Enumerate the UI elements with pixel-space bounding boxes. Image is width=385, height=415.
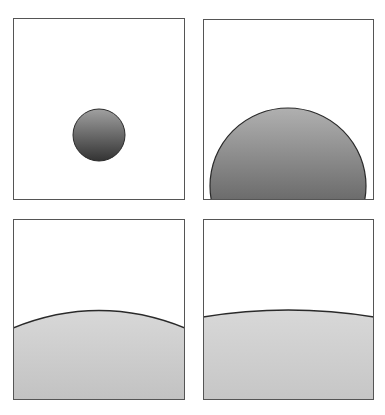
large-circle-graphic [203,19,374,200]
panel-gentle-arc [13,219,185,400]
panel-large-circle [203,19,374,200]
gentle-arc-fill [13,311,185,401]
small-sphere [73,109,125,161]
gentle-arc-graphic [13,219,185,400]
panel-flat-arc [203,219,374,400]
large-sphere [210,108,366,200]
flat-arc-fill [203,310,374,400]
panel-small-circle [13,18,185,200]
small-circle-graphic [13,18,185,200]
flat-arc-graphic [203,219,374,400]
